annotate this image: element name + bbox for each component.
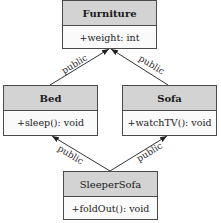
class-member: +watchTV(): void bbox=[123, 111, 216, 134]
class-name: SleeperSofa bbox=[64, 172, 157, 197]
label-sleepersofa-sofa: public bbox=[135, 141, 164, 164]
class-name: Sofa bbox=[123, 86, 216, 111]
class-name: Furniture bbox=[63, 1, 156, 26]
class-bed: Bed +sleep(): void bbox=[3, 85, 98, 136]
class-furniture: Furniture +weight: int bbox=[62, 0, 157, 49]
class-member: +weight: int bbox=[63, 26, 156, 49]
label-sofa-furniture: public bbox=[137, 53, 166, 76]
class-name: Bed bbox=[4, 86, 97, 111]
class-member: +sleep(): void bbox=[4, 111, 97, 134]
class-sleepersofa: SleeperSofa +foldOut(): void bbox=[63, 171, 158, 220]
label-sleepersofa-bed: public bbox=[56, 143, 85, 166]
class-sofa: Sofa +watchTV(): void bbox=[122, 85, 217, 136]
class-member: +foldOut(): void bbox=[64, 197, 157, 220]
